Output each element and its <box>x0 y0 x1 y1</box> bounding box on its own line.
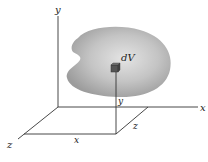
y-coordinate-label: y <box>117 96 124 106</box>
x-axis-label: x <box>200 102 206 113</box>
diagram-canvas: y x z dV y x z <box>0 0 208 162</box>
y-axis-label: y <box>54 4 61 15</box>
irregular-body <box>67 27 171 97</box>
x-coordinate-label: x <box>74 135 79 145</box>
base-right-edge <box>116 107 148 134</box>
z-coordinate-label: z <box>132 121 138 131</box>
volume-element-icon <box>111 63 120 72</box>
dv-label: dV <box>121 52 136 63</box>
z-axis-label: z <box>6 139 13 150</box>
